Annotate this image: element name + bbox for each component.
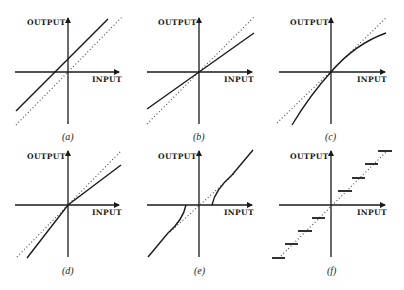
panel-d: OUTPUT INPUT (d): [15, 151, 122, 277]
x-axis-label: INPUT: [357, 75, 387, 84]
y-axis-label: OUTPUT: [27, 18, 66, 27]
x-axis-label: INPUT: [357, 208, 387, 217]
x-axis-label: INPUT: [224, 75, 254, 84]
transfer-function-figure: OUTPUT INPUT (a) OUTPUT INPUT (b) OUTPUT…: [0, 0, 404, 290]
response-curve-positive: [212, 150, 253, 205]
panel-b: OUTPUT INPUT (b): [147, 17, 254, 143]
panel-a: OUTPUT INPUT (a): [15, 17, 122, 143]
panel-caption: (d): [62, 265, 74, 277]
y-axis-label: OUTPUT: [158, 18, 197, 27]
response-curve-negative: [148, 205, 186, 257]
y-axis-label: OUTPUT: [158, 152, 197, 161]
x-axis-label: INPUT: [92, 208, 122, 217]
panel-caption: (f): [327, 265, 337, 277]
x-axis-label: INPUT: [224, 208, 254, 217]
panel-e: OUTPUT INPUT (e): [147, 150, 254, 277]
panel-caption: (e): [194, 265, 206, 277]
y-axis-label: OUTPUT: [290, 152, 329, 161]
identity-line: [281, 152, 386, 256]
panel-c: OUTPUT INPUT (c): [277, 17, 387, 143]
y-axis-label: OUTPUT: [27, 152, 66, 161]
panel-f: OUTPUT INPUT (f): [272, 151, 392, 277]
x-axis-label: INPUT: [92, 75, 122, 84]
response-curve: [16, 19, 108, 111]
panel-caption: (a): [62, 131, 74, 143]
response-curve: [147, 33, 254, 109]
identity-line: [16, 17, 122, 125]
panel-caption: (c): [325, 131, 337, 143]
y-axis-label: OUTPUT: [290, 18, 329, 27]
panel-caption: (b): [193, 131, 205, 143]
